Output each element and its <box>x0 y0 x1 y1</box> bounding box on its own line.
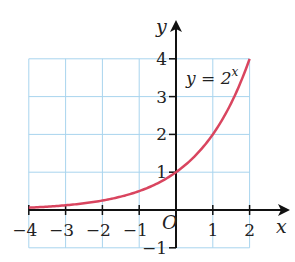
y-tick-label: 4 <box>156 49 167 69</box>
y-tick-label: −1 <box>142 238 167 258</box>
y-tick-label: 1 <box>156 162 167 182</box>
y-tick-label: 3 <box>156 87 167 107</box>
x-tick-label: −3 <box>49 220 74 240</box>
x-axis-label: x <box>276 215 287 237</box>
y-tick-label: 2 <box>156 124 167 144</box>
curve-equation-label: y = 2x <box>185 65 238 88</box>
x-tick-label: −4 <box>12 220 37 240</box>
x-tick-label: 2 <box>244 220 255 240</box>
origin-label: O <box>162 211 178 233</box>
x-tick-label: 1 <box>207 220 218 240</box>
y-axis-label: y <box>155 15 167 37</box>
chart: −4−3−2−1124321−1 x y O y = 2x <box>0 0 295 262</box>
x-tick-label: −2 <box>86 220 111 240</box>
